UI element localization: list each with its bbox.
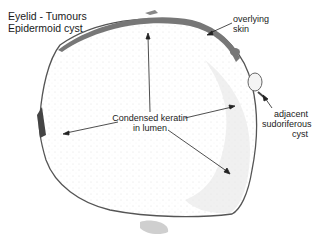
keratin-line-2: in lumen [110,123,190,133]
title-line-2: Epidermoid cyst [8,22,87,34]
sudoriferous-line-1: adjacent [262,109,308,119]
title-line-1: Eyelid - Tumours [8,10,87,22]
label-overlying-skin: overlying skin [233,14,269,34]
overlying-skin-line-2: skin [233,24,269,34]
label-condensed-keratin: Condensed keratin in lumen [110,113,190,133]
micrograph: Eyelid - Tumours Epidermoid cyst overlyi… [0,0,316,249]
sudoriferous-line-2: sudoriferous [262,119,308,129]
overlying-skin-line-1: overlying [233,14,269,24]
sudoriferous-line-3: cyst [262,129,308,139]
keratin-line-1: Condensed keratin [110,113,190,123]
figure-title: Eyelid - Tumours Epidermoid cyst [8,10,87,34]
label-sudoriferous-cyst: adjacent sudoriferous cyst [262,109,308,139]
